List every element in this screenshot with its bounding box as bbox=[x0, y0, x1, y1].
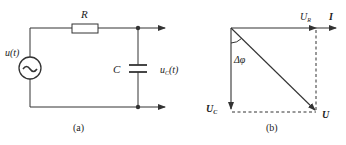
current-label: I bbox=[328, 11, 334, 22]
angle-label: Δφ bbox=[233, 54, 246, 65]
ur-label: UR bbox=[300, 11, 311, 23]
u-phasor bbox=[231, 28, 315, 110]
caption-a: (a) bbox=[73, 122, 84, 134]
u-label: U bbox=[322, 109, 330, 120]
source-label: u(t) bbox=[5, 47, 20, 59]
resistor-label: R bbox=[80, 8, 88, 20]
resistor bbox=[72, 24, 98, 33]
diagram-canvas: R u(t) C uC(t) (a) UR I Δφ UC U (b) bbox=[0, 0, 346, 145]
output-voltage-label: uC(t) bbox=[160, 64, 179, 76]
phasor-diagram: UR I Δφ UC U (b) bbox=[206, 11, 336, 134]
angle-arc bbox=[231, 39, 242, 44]
caption-b: (b) bbox=[266, 122, 278, 134]
rc-circuit: R u(t) C uC(t) (a) bbox=[5, 8, 179, 134]
capacitor-label: C bbox=[113, 63, 121, 75]
uc-label: UC bbox=[206, 103, 218, 115]
